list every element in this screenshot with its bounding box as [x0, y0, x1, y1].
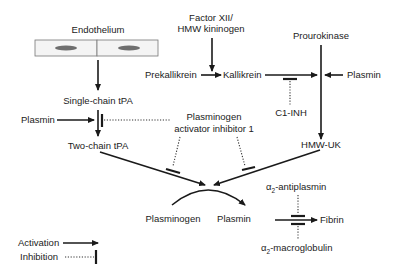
nucleus-icon — [55, 46, 77, 51]
arrow-tctpa-to-plasminogen — [100, 152, 205, 185]
factor-xii-label-line1: Factor XII/ — [189, 12, 233, 23]
c1-inh-label: C1-INH — [275, 107, 307, 118]
factor-xii-label-line2: HMW kininogen — [177, 23, 244, 34]
legend-inhibition-label: Inhibition — [20, 251, 58, 262]
fibrin-label: Fibrin — [320, 214, 344, 225]
a2-macroglobulin-label: α2-macroglobulin — [261, 242, 332, 255]
a2-antiplasmin-label: α2-antiplasmin — [266, 181, 326, 194]
inhibition-bar-pai1-right — [242, 167, 255, 170]
plasmin-center-label: Plasmin — [217, 213, 251, 224]
endothelium-label: Endothelium — [72, 24, 125, 35]
legend-activation-label: Activation — [18, 237, 59, 248]
endothelium-cells — [35, 40, 158, 56]
arrow-hmwuk-to-plasminogen — [214, 150, 320, 185]
inhibition-dotted-pai1-left — [173, 137, 180, 166]
legend: Activation Inhibition — [18, 237, 98, 264]
inhibition-dotted-pai1-right — [237, 137, 245, 166]
inhibition-bar-pai1-left — [166, 169, 180, 173]
hmw-uk-label: HMW-UK — [301, 139, 342, 150]
arrow-plasminogen-to-plasmin — [172, 190, 245, 205]
prourokinase-label: Prourokinase — [293, 30, 349, 41]
plasmin-left-label: Plasmin — [21, 114, 55, 125]
plasminogen-label: Plasminogen — [146, 213, 201, 224]
two-chain-tpa-label: Two-chain tPA — [68, 140, 129, 151]
pai1-label-line2: activator inhibitor 1 — [174, 123, 254, 134]
nucleus-icon — [118, 46, 140, 51]
fibrinolysis-pathway-diagram: Endothelium Single-chain tPA Plasmin Pla… — [0, 0, 395, 274]
kallikrein-label: Kallikrein — [223, 69, 262, 80]
plasmin-right-label: Plasmin — [347, 69, 381, 80]
pai1-label-line1: Plasminogen — [187, 111, 242, 122]
single-chain-tpa-label: Single-chain tPA — [63, 95, 133, 106]
prekallikrein-label: Prekallikrein — [145, 69, 197, 80]
